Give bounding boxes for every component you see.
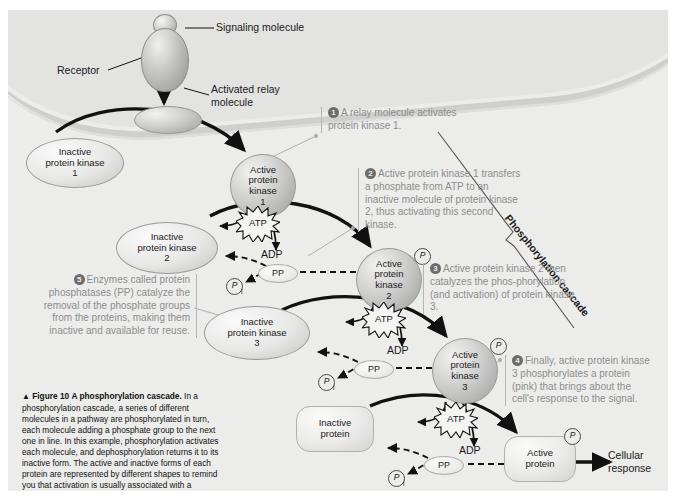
callout-1-number: 1 [328, 107, 339, 118]
adp-label-3: ADP [459, 444, 481, 457]
callout-1-text: A relay molecule activates protein kinas… [328, 107, 457, 131]
protein-phosphatase-1: PP [258, 264, 298, 283]
atp-burst-3: ATP [434, 402, 478, 438]
callout-2: 2Active protein kinase 1 transfers a pho… [358, 168, 522, 232]
activated-relay-label: Activated relay molecule [211, 83, 280, 108]
active-protein-kinase-3: Active protein kinase 3 [432, 338, 498, 404]
phosphate-subscript-1: i [241, 288, 243, 295]
callout-5-text: Enzymes called protein phosphatases (PP)… [44, 274, 190, 336]
inactive-protein-kinase-2: Inactive protein kinase 2 [116, 222, 218, 274]
figure-panel: Signaling molecule Receptor Activated re… [8, 10, 668, 491]
inactive-protein-kinase-3: Inactive protein kinase 3 [204, 306, 310, 360]
callout-2-number: 2 [365, 168, 376, 179]
activated-relay-molecule-shape [134, 106, 202, 134]
atp-label-2: ATP [362, 313, 406, 324]
atp-label-3: ATP [434, 413, 478, 424]
callout-3: 3Active protein kinase 2 then catalyzes … [423, 263, 580, 314]
callout-1: 1A relay molecule activates protein kina… [321, 107, 478, 133]
protein-phosphatase-3: PP [424, 456, 464, 475]
caption-body: In a phosphorylation cascade, a series o… [22, 391, 218, 491]
phosphate-subscript-3: i [403, 480, 405, 487]
figure-caption: ▲ Figure 10 A phosphorylation cascade. I… [22, 391, 220, 491]
inactive-protein: Inactive protein [296, 406, 374, 452]
atp-burst-2: ATP [362, 302, 406, 338]
plasma-membrane-outer [8, 10, 668, 156]
caption-triangle-icon: ▲ [22, 392, 30, 401]
caption-figure-number: Figure 10 [32, 391, 69, 401]
cellular-response-label: Cellular response [608, 449, 651, 474]
callout-3-number: 3 [430, 263, 441, 274]
figure-page: Signaling molecule Receptor Activated re… [0, 0, 676, 501]
phosphate-icon-kinase3: P [490, 338, 507, 355]
signaling-molecule-label: Signaling molecule [216, 21, 304, 34]
caption-title: A phosphorylation cascade. [71, 391, 181, 401]
callout-5-number: 5 [74, 274, 85, 285]
atp-burst-1: ATP [236, 206, 280, 242]
active-protein: Active protein [504, 436, 576, 482]
callout-2-text: Active protein kinase 1 transfers a phos… [365, 168, 520, 230]
phosphate-subscript-2: i [333, 384, 335, 391]
callout-4-number: 4 [512, 355, 523, 366]
callout-5: 5Enzymes called protein phosphatases (PP… [38, 274, 197, 338]
callout-3-text: Active protein kinase 2 then catalyzes t… [430, 263, 575, 312]
atp-label-1: ATP [236, 217, 280, 228]
phosphate-icon-protein: P [564, 428, 581, 445]
receptor-label: Receptor [57, 64, 100, 77]
inactive-protein-kinase-1: Inactive protein kinase 1 [26, 138, 124, 188]
adp-label-1: ADP [261, 248, 283, 261]
adp-label-2: ADP [387, 344, 409, 357]
protein-phosphatase-2: PP [354, 360, 394, 379]
receptor-shape [141, 28, 189, 92]
callout-4-text: Finally, active protein kinase 3 phospho… [512, 355, 650, 404]
callout-4: 4Finally, active protein kinase 3 phosph… [505, 355, 652, 406]
